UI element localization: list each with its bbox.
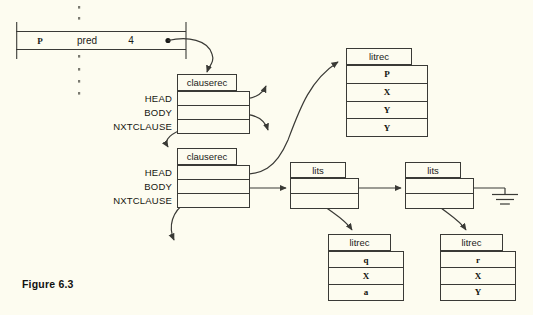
clauserec-2-label-head: HEAD bbox=[100, 167, 172, 178]
litrec-2-header-label: litrec bbox=[349, 237, 369, 248]
litrec-1-row-3: Y bbox=[347, 119, 427, 136]
pred-cell-kind: pred bbox=[64, 35, 110, 46]
clauserec-1-header-label: clauserec bbox=[187, 77, 228, 88]
litrec-1-row-2: Y bbox=[347, 102, 427, 120]
litrec-1-header-label: litrec bbox=[369, 51, 389, 62]
litrec-2-body: q X a bbox=[328, 251, 404, 301]
figure-caption: Figure 6.3 bbox=[22, 278, 74, 290]
clauserec-1-label-head: HEAD bbox=[100, 93, 172, 104]
litrec-1-row-1: X bbox=[347, 84, 427, 102]
litrec-3-body: r X Y bbox=[440, 251, 516, 301]
clauserec-1-row-nxtclause bbox=[178, 120, 249, 133]
litrec-2-row-2: a bbox=[329, 285, 403, 300]
litrec-2-row-1: X bbox=[329, 268, 403, 284]
clauserec-1-header: clauserec bbox=[177, 74, 237, 91]
lits-2-row-1 bbox=[406, 194, 473, 208]
figure-6-3-diagram: P pred 4 clauserec HEAD BODY NXTCLAUSE c… bbox=[0, 0, 533, 315]
lits-1-header: lits bbox=[290, 162, 346, 178]
litrec-1-row-0: P bbox=[347, 66, 427, 84]
litrec-3-header-label: litrec bbox=[461, 237, 481, 248]
lits-2-body bbox=[405, 178, 474, 209]
clauserec-2-header: clauserec bbox=[177, 148, 237, 165]
clauserec-1-row-head bbox=[178, 92, 249, 106]
lits-2-header: lits bbox=[405, 162, 461, 178]
lits-1-row-0 bbox=[291, 179, 358, 194]
clauserec-2-header-label: clauserec bbox=[187, 151, 228, 162]
lits-2-header-label: lits bbox=[427, 165, 439, 176]
litrec-3-header: litrec bbox=[440, 234, 503, 251]
clauserec-2-label-body: BODY bbox=[100, 181, 172, 192]
clauserec-1-label-body: BODY bbox=[100, 107, 172, 118]
litrec-3-row-2: Y bbox=[441, 285, 515, 300]
litrec-1-header: litrec bbox=[346, 48, 412, 65]
clauserec-1-body bbox=[177, 91, 250, 134]
litrec-2-row-0: q bbox=[329, 252, 403, 268]
predicate-entry-strip: P pred 4 bbox=[16, 31, 186, 50]
pred-cell-arity: 4 bbox=[110, 35, 152, 46]
clauserec-1-label-nxtclause: NXTCLAUSE bbox=[90, 121, 172, 132]
clauserec-1-row-body bbox=[178, 106, 249, 120]
clauserec-2-body bbox=[177, 165, 250, 208]
lits-1-body bbox=[290, 178, 359, 209]
litrec-3-row-0: r bbox=[441, 252, 515, 268]
clauserec-2-row-nxtclause bbox=[178, 194, 249, 207]
litrec-3-row-1: X bbox=[441, 268, 515, 284]
litrec-1-body: P X Y Y bbox=[346, 65, 428, 137]
litrec-2-header: litrec bbox=[328, 234, 391, 251]
lits-2-row-0 bbox=[406, 179, 473, 194]
clauserec-2-label-nxtclause: NXTCLAUSE bbox=[90, 195, 172, 206]
vertical-ellipsis-dots bbox=[78, 6, 80, 95]
clauserec-2-row-body bbox=[178, 180, 249, 194]
lits-1-row-1 bbox=[291, 194, 358, 208]
lits-1-header-label: lits bbox=[312, 165, 324, 176]
clauserec-2-row-head bbox=[178, 166, 249, 180]
pred-cell-name: P bbox=[16, 36, 64, 46]
